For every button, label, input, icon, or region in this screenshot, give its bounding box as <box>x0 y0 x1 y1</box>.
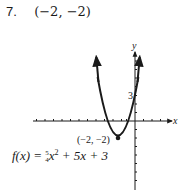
vertex-label: (−2, −2) <box>77 134 110 146</box>
right-arrow-icon <box>138 57 140 82</box>
y-axis-label: y <box>131 40 137 51</box>
x-axis-label: x <box>172 115 178 126</box>
function-suffix: + 5x + 3 <box>59 148 108 163</box>
parabola-graph: x y 3 (−2, −2) <box>0 0 191 194</box>
function-prefix: f(x) = <box>12 148 45 163</box>
left-arrow-icon <box>96 57 98 82</box>
parabola-curve <box>98 77 139 136</box>
function-label: f(x) = 54x2 + 5x + 3 <box>12 148 108 164</box>
y-tick-label: 3 <box>128 90 133 101</box>
vertex-point <box>116 136 121 141</box>
